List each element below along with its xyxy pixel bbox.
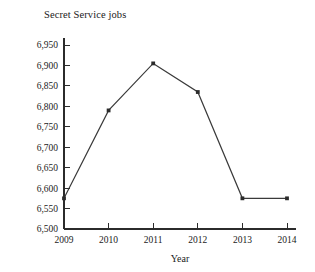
- y-tick-label: 6,800: [37, 102, 59, 112]
- y-tick-label: 6,700: [37, 143, 59, 153]
- data-point-marker: [151, 62, 155, 66]
- x-axis-title: Year: [171, 253, 190, 264]
- y-tick-label: 6,950: [37, 40, 59, 50]
- x-tick-label: 2011: [144, 235, 163, 245]
- y-tick-label: 6,550: [37, 204, 59, 214]
- data-series-line: [64, 63, 287, 198]
- data-point-marker: [62, 196, 66, 200]
- x-axis-tick-marks: [64, 223, 287, 229]
- chart-figure: Secret Service jobs 6,5006,5506,6006,650…: [0, 0, 315, 272]
- y-tick-label: 6,500: [37, 224, 59, 234]
- y-axis-tick-marks: [64, 45, 70, 229]
- x-tick-label: 2012: [188, 235, 207, 245]
- line-chart-plot: 6,5006,5506,6006,6506,7006,7506,8006,850…: [0, 0, 315, 272]
- data-point-markers: [62, 62, 289, 201]
- data-point-marker: [241, 196, 245, 200]
- y-tick-label: 6,750: [37, 122, 59, 132]
- x-tick-label: 2010: [99, 235, 118, 245]
- x-tick-label: 2014: [278, 235, 297, 245]
- y-tick-label: 6,850: [37, 81, 59, 91]
- data-point-marker: [285, 196, 289, 200]
- y-tick-label: 6,600: [37, 184, 59, 194]
- x-tick-label: 2009: [55, 235, 74, 245]
- y-tick-label: 6,650: [37, 163, 59, 173]
- y-axis-tick-labels: 6,5006,5506,6006,6506,7006,7506,8006,850…: [37, 40, 59, 234]
- x-axis-tick-labels: 200920102011201220132014: [55, 235, 297, 245]
- x-tick-label: 2013: [233, 235, 252, 245]
- y-tick-label: 6,900: [37, 61, 59, 71]
- data-point-marker: [107, 109, 111, 113]
- data-point-marker: [196, 90, 200, 94]
